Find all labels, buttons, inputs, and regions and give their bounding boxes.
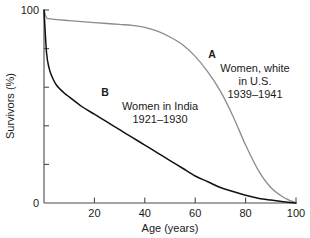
- x-tick-label-80: 80: [239, 207, 251, 219]
- x-tick-label-40: 40: [139, 207, 151, 219]
- survivorship-curve-chart: 100 0 20 40 60 80 100 Age (years) Surviv…: [0, 0, 310, 238]
- chart-svg: 100 0 20 40 60 80 100 Age (years) Surviv…: [0, 0, 310, 238]
- x-tick-label-100: 100: [287, 207, 305, 219]
- x-axis-title: Age (years): [142, 222, 199, 234]
- x-tick-label-60: 60: [189, 207, 201, 219]
- annotation-a: Women, white in U.S. 1939–1941: [220, 62, 290, 100]
- series-key-label-b: B: [101, 86, 109, 98]
- annotation-a-line-1: Women, white: [220, 62, 290, 74]
- annotation-a-line-3: 1939–1941: [227, 88, 282, 100]
- y-axis-title: Survivors (%): [4, 73, 16, 139]
- annotation-b-line-2: 1921–1930: [132, 113, 187, 125]
- series-key-label-a: A: [208, 48, 216, 60]
- annotation-b-line-1: Women in India: [122, 100, 199, 112]
- y-tick-label-0: 0: [33, 197, 39, 209]
- x-tick-label-20: 20: [88, 207, 100, 219]
- x-axis-ticks: [94, 198, 296, 204]
- annotation-a-line-2: in U.S.: [238, 75, 271, 87]
- y-tick-label-100: 100: [21, 4, 39, 16]
- annotation-b: Women in India 1921–1930: [122, 100, 199, 125]
